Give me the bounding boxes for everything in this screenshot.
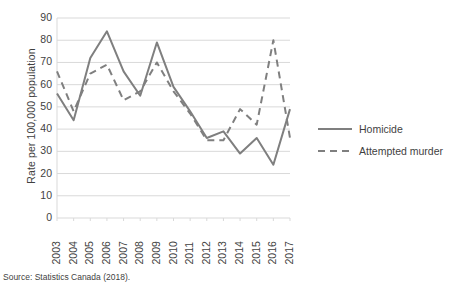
chart-legend: HomicideAttempted murder bbox=[318, 118, 454, 162]
x-axis-tick-labels: 2003200420052006200720082009201020112012… bbox=[0, 220, 300, 266]
y-tick-label: 80 bbox=[28, 34, 52, 45]
y-tick-label: 20 bbox=[28, 168, 52, 179]
x-tick-label: 2017 bbox=[284, 241, 295, 264]
x-tick-label: 2011 bbox=[184, 241, 195, 264]
legend-item[interactable]: Homicide bbox=[318, 118, 454, 140]
y-tick-label: 60 bbox=[28, 79, 52, 90]
x-tick-label: 2016 bbox=[267, 241, 278, 264]
dashed-line-icon bbox=[318, 146, 352, 156]
source-note: Source: Statistics Canada (2018). bbox=[3, 272, 130, 282]
x-tick-label: 2005 bbox=[84, 241, 95, 264]
y-tick-label: 50 bbox=[28, 101, 52, 112]
x-tick-label: 2010 bbox=[167, 241, 178, 264]
y-tick-label: 10 bbox=[28, 190, 52, 201]
x-tick-label: 2007 bbox=[117, 241, 128, 264]
solid-line-icon bbox=[318, 124, 352, 134]
x-tick-label: 2008 bbox=[134, 241, 145, 264]
axis-lines bbox=[57, 18, 290, 221]
series-line-1 bbox=[57, 31, 290, 164]
y-tick-label: 30 bbox=[28, 145, 52, 156]
y-tick-label: 90 bbox=[28, 12, 52, 23]
x-tick-label: 2015 bbox=[250, 241, 261, 264]
data-series bbox=[57, 31, 290, 164]
legend-label: Homicide bbox=[359, 123, 403, 135]
line-chart-figure: Rate per 100,000 population 908070605040… bbox=[0, 0, 457, 286]
x-tick-label: 2014 bbox=[234, 241, 245, 264]
y-tick-label: 70 bbox=[28, 56, 52, 67]
legend-item[interactable]: Attempted murder bbox=[318, 140, 454, 162]
x-tick-label: 2009 bbox=[150, 241, 161, 264]
x-tick-label: 2013 bbox=[217, 241, 228, 264]
x-tick-label: 2003 bbox=[51, 241, 62, 264]
chart-plot-area: Rate per 100,000 population 908070605040… bbox=[0, 0, 300, 270]
legend-label: Attempted murder bbox=[359, 145, 443, 157]
x-tick-label: 2012 bbox=[200, 241, 211, 264]
gridlines bbox=[57, 18, 290, 218]
x-tick-label: 2004 bbox=[67, 241, 78, 264]
y-tick-label: 40 bbox=[28, 123, 52, 134]
x-tick-label: 2006 bbox=[100, 241, 111, 264]
